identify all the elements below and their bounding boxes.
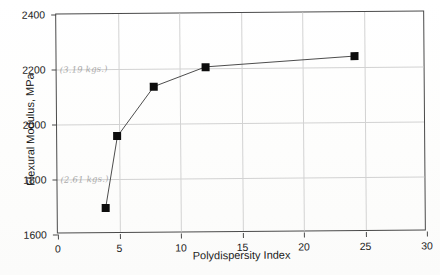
y-tick-label: 2200 xyxy=(22,64,45,76)
chart-figure: Polydispersity Index Flexural Modulus, M… xyxy=(0,0,440,275)
y-tick-label: 2400 xyxy=(22,9,45,21)
plot-area: 051015202530 16001800200022002400 (3.19 … xyxy=(55,11,426,234)
data-point-marker xyxy=(150,83,158,91)
data-point-marker xyxy=(113,132,121,140)
data-series-line xyxy=(56,11,440,275)
y-tick-label: 1800 xyxy=(23,174,46,186)
y-tick-label: 1600 xyxy=(23,229,46,241)
plot-wrapper: Polydispersity Index Flexural Modulus, M… xyxy=(0,0,440,275)
data-point-marker xyxy=(201,63,209,71)
data-point-marker xyxy=(102,204,110,212)
data-point-marker xyxy=(350,52,358,60)
y-tick-label: 2000 xyxy=(23,119,46,131)
